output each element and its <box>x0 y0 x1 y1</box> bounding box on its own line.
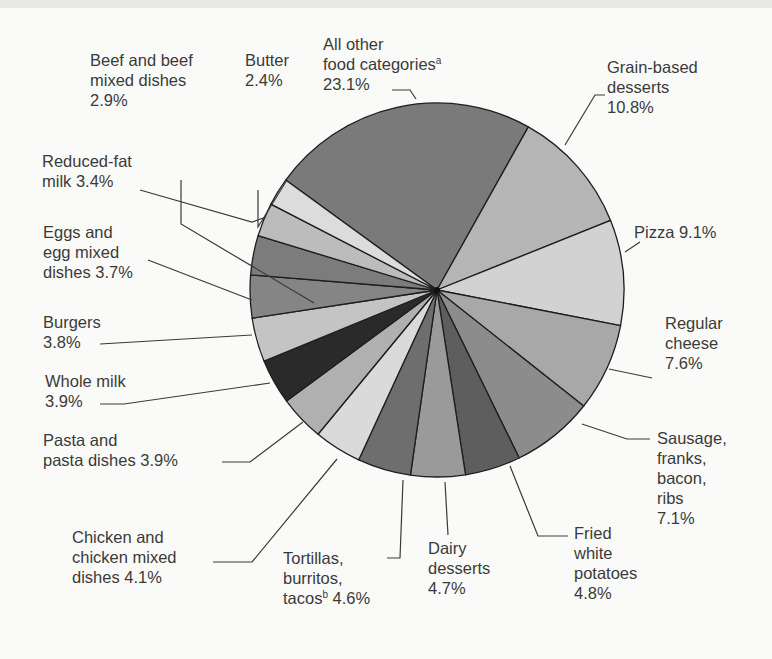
leader-sausage <box>582 424 650 439</box>
leader-chicken <box>213 459 337 562</box>
label-reduced-fat-milk: Reduced-fat milk 3.4% <box>42 151 132 191</box>
label-regular-cheese: Regular cheese 7.6% <box>665 313 723 373</box>
label-pizza: Pizza 9.1% <box>634 222 717 242</box>
label-eggs: Eggs and egg mixed dishes 3.7% <box>43 222 133 282</box>
leader-reduced <box>140 190 266 222</box>
leader-grain <box>565 95 605 145</box>
label-grain-desserts: Grain-based desserts 10.8% <box>607 57 698 117</box>
leader-fried <box>510 466 568 536</box>
pie-slices <box>250 103 624 477</box>
label-pasta: Pasta and pasta dishes 3.9% <box>43 430 178 470</box>
leader-cheese <box>609 369 652 378</box>
leader-pizza <box>625 242 640 252</box>
label-fried-potatoes: Fried white potatoes 4.8% <box>574 523 637 603</box>
label-whole-milk: Whole milk 3.9% <box>45 371 126 411</box>
label-beef: Beef and beef mixed dishes 2.9% <box>90 50 193 110</box>
label-sausage: Sausage, franks, bacon, ribs 7.1% <box>657 428 727 528</box>
label-tortillas: Tortillas, burritos, tacosb 4.6% <box>283 548 370 608</box>
leader-burgers <box>100 335 252 344</box>
leader-eggs <box>148 260 252 300</box>
label-dairy-desserts: Dairy desserts 4.7% <box>428 538 490 598</box>
pie-center-dot <box>434 287 440 293</box>
leader-tortillas <box>387 480 403 558</box>
label-burgers: Burgers 3.8% <box>43 312 101 352</box>
label-butter: Butter 2.4% <box>245 50 289 90</box>
label-all-other: All other food categoriesa 23.1% <box>323 34 441 94</box>
label-chicken: Chicken and chicken mixed dishes 4.1% <box>72 527 177 587</box>
leader-dairy <box>445 482 448 535</box>
leader-pasta <box>222 422 303 462</box>
